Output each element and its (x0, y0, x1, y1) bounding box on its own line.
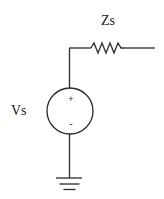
impedance-label: Zs (101, 13, 115, 28)
negative-marker: - (69, 118, 72, 129)
resistor-icon (91, 43, 124, 53)
source-label: Vs (11, 103, 27, 118)
positive-marker: + (68, 94, 73, 104)
ground-icon (56, 178, 82, 190)
circuit-diagram: Zs + - Vs (0, 0, 164, 199)
